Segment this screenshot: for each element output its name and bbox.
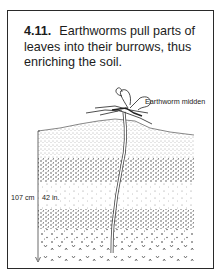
soil-profile-illustration	[0, 0, 222, 276]
depth-in-label: 42 in.	[42, 193, 60, 202]
dense-layer-2	[38, 209, 194, 229]
depth-cm-label: 107 cm	[11, 193, 35, 202]
midden-label: Earthworm midden	[145, 97, 205, 106]
topsoil-layer	[38, 119, 194, 158]
rocky-subsoil	[40, 243, 194, 262]
coarse-layer	[38, 229, 194, 243]
earthworm-midden	[86, 88, 152, 124]
dense-layer-1	[38, 158, 194, 182]
